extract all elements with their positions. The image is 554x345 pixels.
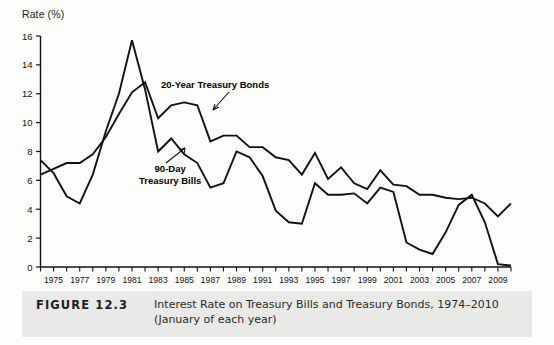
- series-line-bonds: [41, 82, 512, 216]
- x-axis-tick-label: 1995: [305, 275, 324, 285]
- series-line-bills: [41, 40, 512, 265]
- series-annotation-bonds: 20-Year Treasury Bonds: [161, 79, 269, 91]
- y-axis-tick-label: 2: [27, 233, 32, 244]
- x-axis-tick-label: 1997: [332, 275, 351, 285]
- annotation-arrow-bonds: [213, 92, 229, 110]
- caption-line-2: (January of each year): [154, 312, 499, 327]
- annotation-arrow-bills: [166, 148, 185, 163]
- x-axis-tick-label: 1999: [358, 275, 377, 285]
- y-axis-tick-label: 4: [27, 204, 32, 215]
- figure-container: Rate (%) 0246810121416197519771979198119…: [0, 0, 554, 345]
- figure-caption-text: Interest Rate on Treasury Bills and Trea…: [154, 297, 499, 327]
- axis-spines: [41, 36, 512, 267]
- y-axis-tick-label: 16: [22, 31, 33, 42]
- x-axis-tick-label: 2003: [410, 275, 429, 285]
- y-axis-tick-label: 10: [22, 117, 33, 128]
- x-axis-tick-label: 1981: [122, 275, 141, 285]
- caption-line-1: Interest Rate on Treasury Bills and Trea…: [154, 297, 499, 312]
- x-axis-tick-label: 2001: [384, 275, 403, 285]
- x-axis-tick-label: 1991: [253, 275, 272, 285]
- series-annotation-bills: 90-Day Treasury Bills: [139, 163, 201, 186]
- y-axis-tick-label: 14: [22, 59, 33, 70]
- x-axis-tick-label: 1975: [44, 275, 63, 285]
- y-axis-title: Rate (%): [22, 8, 64, 20]
- y-axis-tick-label: 0: [27, 262, 32, 273]
- y-axis-tick-label: 12: [22, 88, 33, 99]
- x-axis-tick-label: 2007: [462, 275, 481, 285]
- x-axis-tick-label: 1987: [201, 275, 220, 285]
- series-annotation-bills-line2: Treasury Bills: [139, 175, 201, 186]
- x-axis-tick-label: 2005: [436, 275, 455, 285]
- line-chart-svg: 0246810121416197519771979198119831985198…: [0, 0, 554, 285]
- figure-caption-bar: FIGURE 12.3 Interest Rate on Treasury Bi…: [22, 291, 532, 337]
- series-annotation-bills-line1: 90-Day: [155, 163, 186, 174]
- x-axis-tick-label: 1993: [279, 275, 298, 285]
- chart-plot-area: Rate (%) 0246810121416197519771979198119…: [0, 0, 554, 285]
- y-axis-tick-label: 8: [27, 146, 32, 157]
- x-axis-tick-label: 2009: [488, 275, 507, 285]
- y-axis-tick-label: 6: [27, 175, 32, 186]
- x-axis-tick-label: 1989: [227, 275, 246, 285]
- figure-number: FIGURE 12.3: [36, 297, 128, 312]
- x-axis-tick-label: 1977: [70, 275, 89, 285]
- x-axis-tick-label: 1979: [96, 275, 115, 285]
- x-axis-tick-label: 1985: [175, 275, 194, 285]
- x-axis-tick-label: 1983: [149, 275, 168, 285]
